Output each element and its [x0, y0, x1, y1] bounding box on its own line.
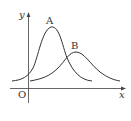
y-axis-arrow-icon: [27, 12, 31, 17]
curve-a-label: A: [45, 15, 54, 26]
distribution-diagram: y O x A B: [0, 0, 131, 121]
x-axis-label: x: [119, 89, 125, 100]
curve-b-label: B: [71, 40, 78, 51]
curve-b: [30, 52, 120, 81]
y-axis-label: y: [18, 9, 25, 20]
origin-label: O: [18, 89, 26, 100]
